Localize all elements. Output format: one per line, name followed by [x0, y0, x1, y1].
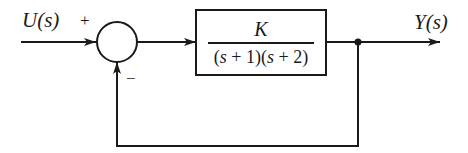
input-label: U(s) [22, 10, 59, 31]
summing-junction [97, 22, 137, 62]
output-label: Y(s) [414, 12, 448, 33]
minus-sign: − [126, 70, 136, 87]
transfer-function: K (s + 1)(s + 2) [197, 11, 325, 74]
tf-denominator: (s + 1)(s + 2) [214, 48, 308, 66]
plus-sign: + [80, 12, 90, 29]
fraction-bar [208, 42, 314, 44]
tf-numerator: K [254, 19, 267, 39]
